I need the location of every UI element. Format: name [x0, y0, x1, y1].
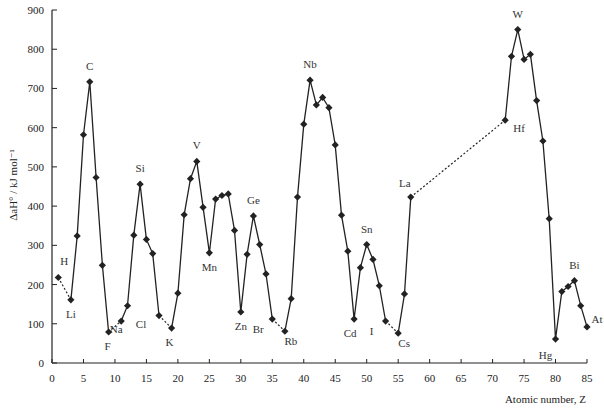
element-label: Na	[110, 323, 123, 335]
diamond-marker	[187, 175, 194, 182]
diamond-marker	[130, 232, 137, 239]
x-tick-label: 85	[582, 372, 594, 384]
diamond-marker	[124, 302, 131, 309]
y-tick-label: 300	[28, 239, 45, 251]
x-tick-label: 70	[487, 372, 499, 384]
diamond-marker	[332, 141, 339, 148]
diamond-marker	[269, 315, 276, 322]
diamond-marker	[306, 77, 313, 84]
diamond-marker	[67, 296, 74, 303]
x-tick-label: 75	[519, 372, 531, 384]
diamond-marker	[502, 117, 509, 124]
x-tick-label: 15	[141, 372, 153, 384]
atomization-enthalpy-chart: 0510152025303540455055606570758085010020…	[0, 0, 604, 410]
diamond-marker	[199, 204, 206, 211]
diamond-marker	[231, 227, 238, 234]
y-tick-label: 200	[28, 279, 45, 291]
series-line	[386, 321, 399, 333]
diamond-marker	[357, 264, 364, 271]
element-label: Hg	[539, 349, 553, 361]
diamond-marker	[86, 78, 93, 85]
x-tick-label: 35	[267, 372, 279, 384]
diamond-marker	[80, 131, 87, 138]
element-label: Hf	[513, 122, 525, 134]
series-line	[159, 316, 172, 329]
diamond-marker	[92, 174, 99, 181]
x-tick-label: 10	[109, 372, 121, 384]
diamond-marker	[262, 270, 269, 277]
diamond-marker	[539, 137, 546, 144]
x-tick-label: 30	[235, 372, 247, 384]
diamond-marker	[583, 323, 590, 330]
x-tick-label: 45	[330, 372, 342, 384]
y-tick-label: 0	[39, 357, 45, 369]
y-axis-title: ΔaH° / kJ mol⁻¹	[7, 149, 19, 221]
diamond-marker	[533, 97, 540, 104]
diamond-marker	[407, 193, 414, 200]
x-tick-label: 50	[361, 372, 373, 384]
y-tick-label: 100	[28, 318, 45, 330]
element-label: Mn	[202, 261, 218, 273]
series-line	[411, 120, 505, 197]
series-line	[505, 30, 587, 340]
diamond-marker	[508, 53, 515, 60]
diamond-marker	[225, 190, 232, 197]
diamond-marker	[212, 195, 219, 202]
element-label: Ge	[247, 194, 260, 206]
series-line	[272, 319, 285, 331]
x-tick-label: 80	[550, 372, 562, 384]
diamond-marker	[193, 158, 200, 165]
element-label: I	[370, 325, 374, 337]
diamond-marker	[294, 193, 301, 200]
x-axis-title: Atomic number, Z	[505, 393, 586, 405]
diamond-marker	[338, 212, 345, 219]
y-tick-label: 800	[28, 43, 45, 55]
element-label: Si	[136, 162, 145, 174]
diamond-marker	[325, 104, 332, 111]
element-label: Nb	[303, 58, 317, 70]
x-tick-label: 5	[81, 372, 87, 384]
diamond-marker	[168, 324, 175, 331]
series-line	[398, 197, 411, 333]
element-label: C	[86, 60, 93, 72]
diamond-marker	[155, 312, 162, 319]
element-label: La	[399, 177, 411, 189]
element-label: H	[60, 255, 68, 267]
element-label: W	[513, 8, 524, 20]
x-tick-label: 60	[424, 372, 436, 384]
diamond-marker	[206, 249, 213, 256]
series-line	[58, 278, 71, 300]
element-label: Cl	[136, 318, 146, 330]
element-label: Cs	[398, 337, 410, 349]
x-tick-label: 20	[172, 372, 184, 384]
y-tick-label: 700	[28, 82, 45, 94]
series-line	[285, 80, 386, 331]
x-tick-label: 55	[393, 372, 405, 384]
diamond-marker	[577, 302, 584, 309]
y-tick-label: 500	[28, 161, 45, 173]
diamond-marker	[363, 241, 370, 248]
element-label: Bi	[569, 259, 579, 271]
diamond-marker	[181, 211, 188, 218]
diamond-marker	[137, 181, 144, 188]
diamond-marker	[143, 236, 150, 243]
diamond-marker	[244, 251, 251, 258]
diamond-marker	[288, 295, 295, 302]
diamond-marker	[401, 290, 408, 297]
element-label: Li	[66, 308, 76, 320]
diamond-marker	[344, 248, 351, 255]
diamond-marker	[256, 241, 263, 248]
element-label: Zn	[235, 320, 248, 332]
diamond-marker	[99, 262, 106, 269]
diamond-marker	[218, 192, 225, 199]
diamond-marker	[300, 121, 307, 128]
x-tick-label: 25	[204, 372, 216, 384]
diamond-marker	[546, 215, 553, 222]
y-tick-label: 600	[28, 122, 45, 134]
y-tick-label: 900	[28, 4, 45, 16]
diamond-marker	[382, 317, 389, 324]
element-label: Sn	[361, 223, 373, 235]
element-label: Rb	[284, 335, 297, 347]
element-label: F	[105, 340, 111, 352]
element-label: Br	[253, 323, 264, 335]
